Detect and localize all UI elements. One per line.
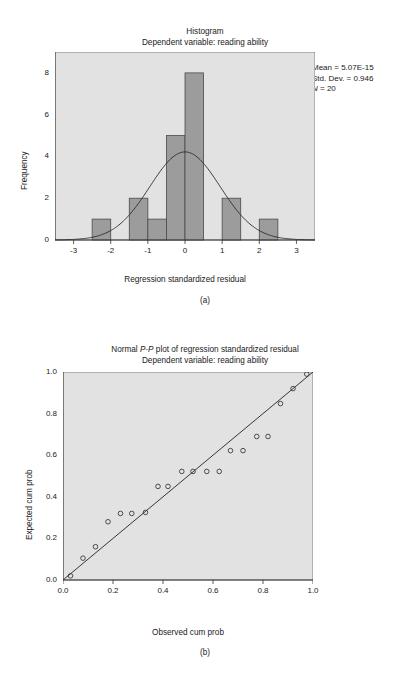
histogram-title-line1: Histogram xyxy=(0,27,410,38)
histogram-y-tick: 6 xyxy=(31,110,49,119)
ppplot-x-axis-title: Observed cum prob xyxy=(63,628,313,637)
histogram-bar xyxy=(148,219,167,240)
histogram-x-tick: 2 xyxy=(247,246,271,255)
ppplot-plot xyxy=(63,372,313,607)
ppplot-x-tick: 0.8 xyxy=(249,586,277,595)
histogram-bar xyxy=(222,198,241,240)
ppplot-x-tick: 0.4 xyxy=(149,586,177,595)
ppplot-title-line1: Normal P-P plot of regression standardiz… xyxy=(0,345,410,356)
histogram-x-tick: -3 xyxy=(62,246,86,255)
histogram-x-tick: 3 xyxy=(284,246,308,255)
ppplot-y-tick: 0.0 xyxy=(33,575,57,584)
histogram-x-tick: -2 xyxy=(99,246,123,255)
ppplot-y-tick: 0.2 xyxy=(33,533,57,542)
histogram-stat-sd: Std. Dev. = 0.946 xyxy=(312,74,373,85)
page-header-fragment xyxy=(342,0,402,8)
figure-container: Histogram Dependent variable: reading ab… xyxy=(0,0,410,680)
ppplot-title-italic: P-P xyxy=(140,345,154,354)
ppplot-y-tick: 0.4 xyxy=(33,492,57,501)
histogram-plot xyxy=(55,52,315,262)
histogram-y-axis-title: Frequency xyxy=(20,151,29,190)
histogram-y-tick: 2 xyxy=(31,193,49,202)
histogram-y-tick: 4 xyxy=(31,151,49,160)
histogram-y-tick: 0 xyxy=(31,235,49,244)
histogram-x-tick: 1 xyxy=(210,246,234,255)
ppplot-x-tick: 0.0 xyxy=(49,586,77,595)
histogram-stat-n-value: = 20 xyxy=(318,84,336,93)
histogram-y-tick: 8 xyxy=(31,68,49,77)
histogram-x-tick: -1 xyxy=(136,246,160,255)
panel-letter-a: (a) xyxy=(0,296,410,305)
histogram-bar xyxy=(185,73,204,240)
ppplot-title-prefix: Normal xyxy=(111,345,140,354)
ppplot-y-tick: 0.6 xyxy=(33,450,57,459)
ppplot-title-suffix: plot of regression standardized residual xyxy=(154,345,299,354)
ppplot-y-tick: 0.8 xyxy=(33,409,57,418)
figure-caption-cut xyxy=(8,672,308,680)
ppplot-y-tick: 1.0 xyxy=(33,367,57,376)
histogram-bar xyxy=(166,136,185,240)
histogram-x-tick: 0 xyxy=(173,246,197,255)
histogram-stat-n: N = 20 xyxy=(312,84,336,95)
ppplot-y-axis-title: Expected cum prob xyxy=(25,469,34,540)
panel-letter-b: (b) xyxy=(0,648,410,657)
ppplot-title-line2: Dependent variable: reading ability xyxy=(0,356,410,367)
histogram-title-line2: Dependent variable: reading ability xyxy=(0,38,410,49)
histogram-bar xyxy=(129,198,148,240)
histogram-x-axis-title: Regression standardized residual xyxy=(55,275,315,284)
ppplot-x-tick: 0.2 xyxy=(99,586,127,595)
ppplot-x-tick: 1.0 xyxy=(299,586,327,595)
ppplot-x-tick: 0.6 xyxy=(199,586,227,595)
histogram-stat-mean: Mean = 5.07E-15 xyxy=(312,63,374,74)
